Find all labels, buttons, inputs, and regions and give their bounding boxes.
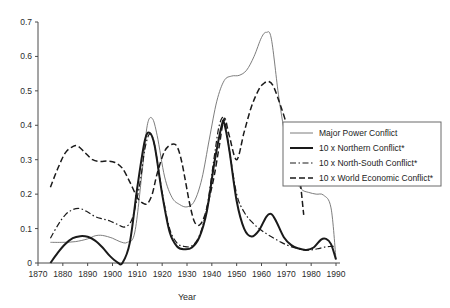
y-tick-label: 0.5 — [20, 86, 32, 96]
x-tick-label: 1970 — [277, 269, 296, 279]
y-axis-ticks: 00.10.20.30.40.50.60.7 — [20, 17, 38, 268]
y-tick-label: 0.2 — [20, 189, 32, 199]
y-tick-label: 0.4 — [20, 120, 32, 130]
series-line-3 — [50, 81, 303, 225]
x-tick-label: 1890 — [78, 269, 97, 279]
x-axis-title: Year — [178, 292, 196, 302]
legend-label-1: 10 x Northern Conflict* — [319, 143, 405, 153]
y-tick-label: 0 — [27, 258, 32, 268]
x-tick-label: 1900 — [103, 269, 122, 279]
y-tick-label: 0.6 — [20, 51, 32, 61]
x-tick-label: 1950 — [227, 269, 246, 279]
chart-container: 1870188018901900191019201930194019501960… — [0, 0, 450, 308]
y-tick-label: 0.3 — [20, 155, 32, 165]
x-tick-label: 1870 — [29, 269, 48, 279]
x-tick-label: 1980 — [302, 269, 321, 279]
legend-label-2: 10 x North-South Conflict* — [319, 158, 418, 168]
legend-label-0: Major Power Conflict — [319, 128, 398, 138]
x-tick-label: 1880 — [53, 269, 72, 279]
x-tick-label: 1990 — [327, 269, 346, 279]
legend-label-3: 10 x World Economic Conflict* — [319, 173, 434, 183]
x-axis-ticks: 1870188018901900191019201930194019501960… — [29, 263, 346, 279]
chart-legend: Major Power Conflict10 x Northern Confli… — [283, 122, 441, 186]
y-tick-label: 0.7 — [20, 17, 32, 27]
x-tick-label: 1960 — [252, 269, 271, 279]
line-chart: 1870188018901900191019201930194019501960… — [0, 0, 450, 308]
x-tick-label: 1920 — [153, 269, 172, 279]
y-tick-label: 0.1 — [20, 224, 32, 234]
x-tick-label: 1940 — [202, 269, 221, 279]
x-tick-label: 1930 — [178, 269, 197, 279]
x-tick-label: 1910 — [128, 269, 147, 279]
